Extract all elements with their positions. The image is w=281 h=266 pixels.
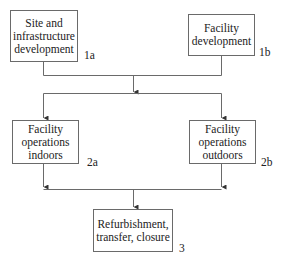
node-1a-line-3: development [13, 43, 75, 56]
node-2a-line-2: operations [22, 136, 70, 149]
node-refurbishment-transfer-closure: Refurbishment, transfer, closure [93, 209, 173, 252]
node-1a-line-2: infrastructure [13, 30, 75, 43]
node-1b-line-1: Facility [192, 22, 251, 35]
node-2b-line-2: operations [199, 136, 247, 149]
node-2b-tag: 2b [261, 156, 273, 168]
node-facility-operations-outdoors: Facility operations outdoors [189, 120, 256, 164]
node-2a-line-1: Facility [22, 123, 70, 136]
node-site-infrastructure-development: Site and infrastructure development [10, 10, 78, 62]
node-2a-tag: 2a [87, 156, 98, 168]
node-1b-line-2: development [192, 35, 251, 48]
node-facility-operations-indoors: Facility operations indoors [12, 120, 79, 164]
node-2b-line-1: Facility [199, 123, 247, 136]
node-3-tag: 3 [179, 242, 185, 254]
node-1a-tag: 1a [84, 49, 95, 61]
node-3-line-2: transfer, closure [96, 231, 170, 244]
node-facility-development: Facility development [188, 14, 255, 56]
node-2b-line-3: outdoors [199, 149, 247, 162]
node-1b-tag: 1b [259, 46, 271, 58]
node-2a-line-3: indoors [22, 149, 70, 162]
node-1a-line-1: Site and [13, 17, 75, 30]
node-3-line-1: Refurbishment, [96, 218, 170, 231]
